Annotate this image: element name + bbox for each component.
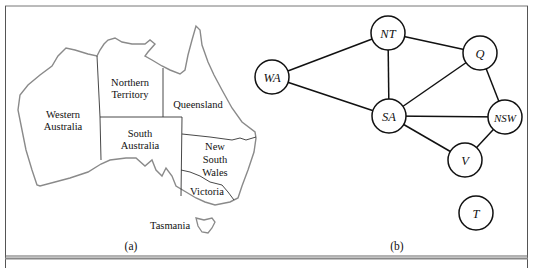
svg-text:NT: NT bbox=[379, 27, 396, 41]
figure-canvas: WesternAustralia NorthernTerritory Queen… bbox=[0, 0, 533, 268]
node-nsw: NSW bbox=[488, 100, 522, 134]
region-label-q: Queensland bbox=[173, 99, 223, 110]
node-sa: SA bbox=[372, 99, 406, 133]
node-q: Q bbox=[463, 36, 497, 70]
svg-text:T: T bbox=[473, 207, 481, 221]
region-label-nt: NorthernTerritory bbox=[111, 77, 150, 100]
node-v: V bbox=[448, 143, 482, 177]
caption-a: (a) bbox=[125, 240, 138, 253]
edge-wa-sa bbox=[272, 77, 389, 116]
svg-text:Q: Q bbox=[475, 47, 484, 61]
svg-text:NSW: NSW bbox=[493, 112, 517, 124]
svg-text:WA: WA bbox=[263, 71, 281, 85]
tasmania-outline bbox=[196, 218, 215, 233]
edge-wa-nt bbox=[272, 33, 388, 77]
svg-text:SA: SA bbox=[382, 110, 396, 124]
figure: WesternAustralia NorthernTerritory Queen… bbox=[0, 0, 533, 268]
caption-b: (b) bbox=[390, 240, 404, 253]
node-wa: WA bbox=[255, 60, 289, 94]
region-label-wa: WesternAustralia bbox=[44, 109, 83, 132]
region-label-v: Victoria bbox=[190, 186, 224, 197]
region-label-t: Tasmania bbox=[150, 220, 190, 231]
constraint-graph: NT WA Q SA NSW V T (b) bbox=[255, 16, 522, 253]
region-label-nsw: NewSouthWales bbox=[202, 141, 228, 178]
node-nt: NT bbox=[371, 16, 405, 50]
australia-map: WesternAustralia NorthernTerritory Queen… bbox=[18, 26, 256, 253]
node-t: T bbox=[459, 196, 493, 230]
